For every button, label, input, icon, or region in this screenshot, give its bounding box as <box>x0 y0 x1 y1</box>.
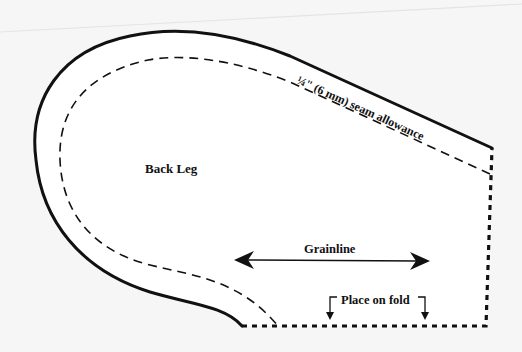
pattern-piece-fill <box>35 31 492 326</box>
grainline-label: Grainline <box>304 242 356 256</box>
paper-crease-line <box>0 4 522 32</box>
pattern-diagram: Back Leg Grainline Place on fold ¼" (6 m… <box>0 0 522 352</box>
fold-label: Place on fold <box>341 293 410 307</box>
pattern-canvas: Back Leg Grainline Place on fold ¼" (6 m… <box>0 0 522 352</box>
piece-label: Back Leg <box>145 161 198 176</box>
